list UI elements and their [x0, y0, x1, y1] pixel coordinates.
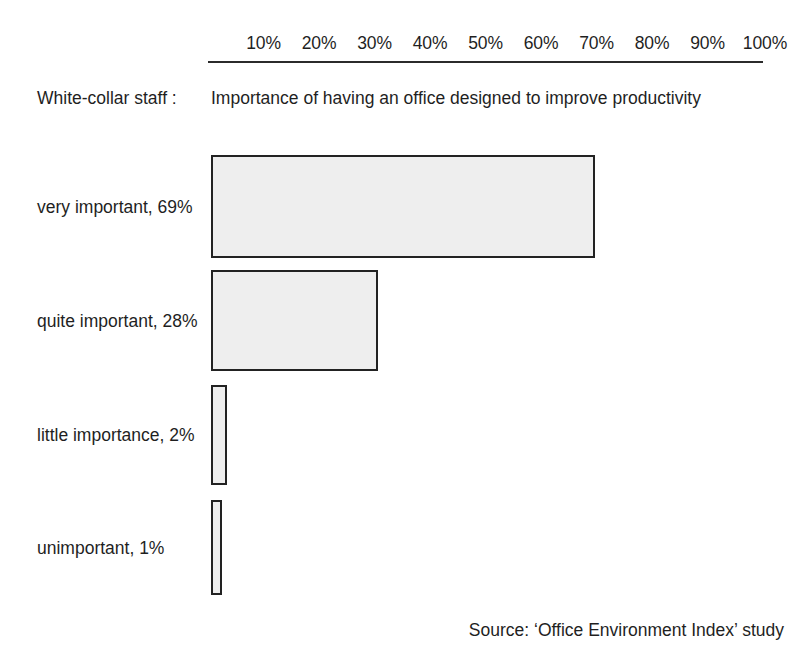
- bar-unimportant[interactable]: [211, 500, 222, 595]
- bar-row: little importance, 2%: [0, 385, 806, 485]
- source-note: Source: ‘Office Environment Index’ study: [469, 618, 784, 642]
- bar-quite-important[interactable]: [211, 270, 378, 371]
- bar-label-quite-important: quite important, 28%: [37, 309, 198, 333]
- bar-label-little-importance: little importance, 2%: [37, 423, 195, 447]
- bar-label-very-important: very important, 69%: [37, 195, 193, 219]
- bar-chart: 10% 20% 30% 40% 50% 60% 70% 80% 90% 100%…: [0, 0, 806, 648]
- plot-area: very important, 69% quite important, 28%…: [0, 0, 806, 648]
- bar-little-importance[interactable]: [211, 385, 227, 485]
- bar-row: unimportant, 1%: [0, 500, 806, 595]
- bar-label-unimportant: unimportant, 1%: [37, 536, 164, 560]
- bar-row: very important, 69%: [0, 155, 806, 258]
- bar-row: quite important, 28%: [0, 270, 806, 371]
- bar-very-important[interactable]: [211, 155, 595, 258]
